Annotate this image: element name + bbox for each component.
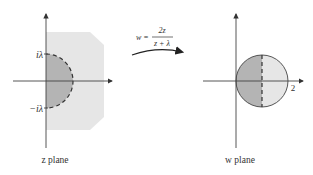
- w-plane: 2 w plane: [203, 14, 303, 165]
- mapping-arrow-icon: [132, 50, 182, 55]
- mapping-formula: w = 2z z + λ: [132, 26, 182, 55]
- z-plane: iλ −iλ z plane: [13, 14, 112, 165]
- label-neg-i-lambda: −iλ: [29, 103, 44, 114]
- conformal-map-diagram: iλ −iλ z plane w = 2z z + λ 2 w plane: [0, 0, 313, 175]
- z-plane-caption: z plane: [41, 155, 68, 165]
- formula-numerator: 2z: [158, 26, 166, 35]
- formula-lhs: w =: [136, 33, 149, 42]
- formula-denominator: z + λ: [153, 39, 171, 48]
- label-i-lambda: iλ: [36, 49, 44, 60]
- label-two: 2: [291, 83, 296, 93]
- w-plane-caption: w plane: [225, 155, 255, 165]
